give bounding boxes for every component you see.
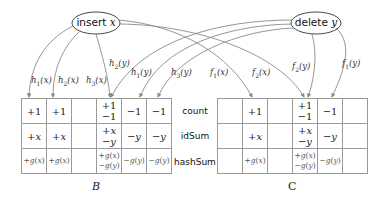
cell-r0-c2 bbox=[72, 99, 97, 124]
cell-r0-c5: −1 bbox=[147, 99, 172, 124]
row-label-idsum: idSum bbox=[172, 131, 218, 141]
cell-term: −g(y) bbox=[318, 156, 342, 166]
cell-term: +1 bbox=[22, 106, 46, 117]
cell-r1-c4: −y bbox=[122, 124, 147, 149]
cell-r1-c0: +x bbox=[22, 124, 47, 149]
cell-r2-c5: −g(y) bbox=[147, 149, 172, 174]
iblt-insert-delete-diagram: insert x delete y h1(x) h2(x) h3(x) h2(y… bbox=[0, 0, 386, 198]
cell-r1-c3: +x−y bbox=[97, 124, 122, 149]
cell-r1-c3: +x−y bbox=[293, 124, 318, 149]
table-b: +1+1+1−1−1−1+x+x+x−y−y−y+g(x)+g(x)+g(x)−… bbox=[21, 98, 172, 174]
cell-r0-c3: +1−1 bbox=[293, 99, 318, 124]
cell-term: +g(x) bbox=[243, 156, 267, 166]
cell-term: +x bbox=[243, 131, 267, 142]
label-delete-h2: h2(y) bbox=[109, 58, 130, 70]
cell-r1-c2 bbox=[268, 124, 293, 149]
cell-term: −1 bbox=[293, 111, 317, 122]
cell-term: −g(y) bbox=[122, 156, 146, 166]
table-row-hashSum: +g(x)+g(x)+g(x)−g(y)−g(y)−g(y) bbox=[22, 149, 172, 174]
cell-r0-c2 bbox=[268, 99, 293, 124]
delete-var: y bbox=[331, 16, 337, 28]
table-c: +1+1−1−1+x+x−y−y+g(x)+g(x)−g(y)−g(y) bbox=[217, 98, 368, 174]
arrow-delete-h2 bbox=[111, 20, 292, 97]
cell-term: +x bbox=[47, 131, 71, 142]
cell-term: +g(x) bbox=[97, 151, 121, 161]
cell-term: +g(x) bbox=[47, 156, 71, 166]
cell-r0-c4: −1 bbox=[122, 99, 147, 124]
cell-term: +1 bbox=[293, 100, 317, 111]
cell-r2-c3: +g(x)−g(y) bbox=[97, 149, 122, 174]
cell-r2-c2 bbox=[72, 149, 97, 174]
cell-r2-c2 bbox=[268, 149, 293, 174]
cell-r1-c5: −y bbox=[147, 124, 172, 149]
cell-term: +1 bbox=[47, 106, 71, 117]
cell-r2-c5 bbox=[343, 149, 368, 174]
arrow-insert-h3 bbox=[96, 34, 110, 97]
cell-term: +x bbox=[97, 125, 121, 136]
cell-r0-c1: +1 bbox=[243, 99, 268, 124]
label-delete-f1: f1(y) bbox=[342, 58, 360, 70]
table-c-caption: C bbox=[288, 180, 296, 193]
arrow-insert-h2 bbox=[53, 32, 79, 97]
cell-r0-c0 bbox=[218, 99, 243, 124]
cell-r1-c4: −y bbox=[318, 124, 343, 149]
cell-term: −y bbox=[122, 131, 146, 142]
cell-term: +1 bbox=[243, 106, 267, 117]
insert-verb: insert bbox=[76, 16, 106, 28]
insert-op-label: insert x bbox=[74, 16, 118, 28]
cell-term: +1 bbox=[97, 100, 121, 111]
cell-term: +x bbox=[22, 131, 46, 142]
cell-term: −y bbox=[318, 131, 342, 142]
arrow-delete-h3 bbox=[158, 28, 294, 97]
cell-r0-c1: +1 bbox=[47, 99, 72, 124]
table-row-idSum: +x+x−y−y bbox=[218, 124, 368, 149]
label-insert-h2: h2(x) bbox=[58, 75, 79, 87]
table-row-idSum: +x+x+x−y−y−y bbox=[22, 124, 172, 149]
label-insert-h3: h3(x) bbox=[86, 75, 107, 87]
cell-term: −1 bbox=[122, 106, 146, 117]
cell-r1-c1: +x bbox=[243, 124, 268, 149]
label-delete-h3: h3(y) bbox=[171, 67, 192, 79]
cell-term: −y bbox=[293, 136, 317, 147]
cell-r2-c1: +g(x) bbox=[243, 149, 268, 174]
table-row-count: +1+1+1−1−1−1 bbox=[22, 99, 172, 124]
table-row-hashSum: +g(x)+g(x)−g(y)−g(y) bbox=[218, 149, 368, 174]
cell-r1-c5 bbox=[343, 124, 368, 149]
cell-term: −1 bbox=[147, 106, 171, 117]
label-insert-f1: f1(x) bbox=[210, 67, 228, 79]
cell-r2-c4: −g(y) bbox=[122, 149, 147, 174]
cell-term: −1 bbox=[97, 111, 121, 122]
cell-term: −y bbox=[147, 131, 171, 142]
table-row-count: +1+1−1−1 bbox=[218, 99, 368, 124]
cell-term: −1 bbox=[318, 106, 342, 117]
cell-term: −g(y) bbox=[147, 156, 171, 166]
cell-term: −g(y) bbox=[97, 161, 121, 171]
cell-term: −y bbox=[97, 136, 121, 147]
cell-r2-c0 bbox=[218, 149, 243, 174]
arrow-delete-h1 bbox=[140, 24, 292, 97]
delete-verb: delete bbox=[295, 16, 328, 28]
row-label-hashsum: hashSum bbox=[172, 157, 218, 167]
table-b-caption: B bbox=[92, 180, 100, 193]
cell-r2-c4: −g(y) bbox=[318, 149, 343, 174]
label-delete-h1: h1(y) bbox=[131, 67, 152, 79]
cell-r0-c4: −1 bbox=[318, 99, 343, 124]
delete-op-label: delete y bbox=[292, 16, 340, 28]
cell-term: +x bbox=[293, 125, 317, 136]
arrow-insert-f2 bbox=[120, 24, 304, 97]
cell-r2-c3: +g(x)−g(y) bbox=[293, 149, 318, 174]
cell-r0-c0: +1 bbox=[22, 99, 47, 124]
cell-r1-c2 bbox=[72, 124, 97, 149]
cell-r0-c3: +1−1 bbox=[97, 99, 122, 124]
label-insert-h1: h1(x) bbox=[31, 75, 52, 87]
cell-r0-c5 bbox=[343, 99, 368, 124]
label-insert-f2: f2(x) bbox=[252, 67, 270, 79]
cell-r1-c0 bbox=[218, 124, 243, 149]
cell-r2-c0: +g(x) bbox=[22, 149, 47, 174]
cell-term: +g(x) bbox=[22, 156, 46, 166]
insert-var: x bbox=[110, 16, 116, 28]
label-delete-f2: f2(y) bbox=[292, 61, 310, 73]
cell-term: −g(y) bbox=[293, 161, 317, 171]
row-label-count: count bbox=[172, 106, 218, 116]
cell-r2-c1: +g(x) bbox=[47, 149, 72, 174]
